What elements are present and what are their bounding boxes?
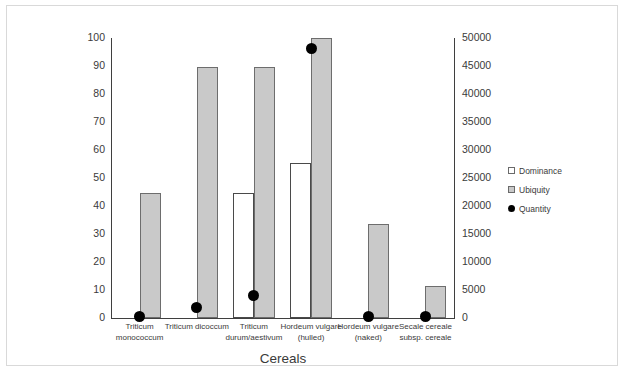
legend-swatch-icon [508,186,515,193]
point-quantity [306,43,317,54]
bar-ubiquity [197,67,218,318]
y-axis-left-tick: 90 [93,60,105,71]
x-axis-title: Cereals [111,351,455,366]
chart-legend: DominanceUbiquityQuantity [508,161,608,218]
bar-ubiquity [368,224,389,318]
point-quantity [248,290,259,301]
y-axis-right-tick: 5000 [462,284,485,295]
y-axis-right-tick: 50000 [462,32,491,43]
point-quantity [420,311,431,322]
legend-swatch-icon [508,205,515,212]
y-axis-left-tick: 60 [93,144,105,155]
legend-item: Ubiquity [508,180,608,199]
chart-frame: 0102030405060708090100 05000100001500020… [6,5,618,366]
y-axis-left-tick: 80 [93,88,105,99]
x-axis-line [111,318,455,319]
bar-ubiquity [140,193,161,318]
legend-label: Quantity [519,204,551,214]
y-axis-left-tick: 50 [93,172,105,183]
y-axis-left-tick: 100 [87,32,105,43]
y-axis-right-tick: 25000 [462,172,491,183]
bar-ubiquity [311,38,332,318]
y-axis-right-tick: 15000 [462,228,491,239]
legend-item: Dominance [508,161,608,180]
legend-item: Quantity [508,199,608,218]
y-axis-left-tick: 10 [93,284,105,295]
y-axis-right-tick: 10000 [462,256,491,267]
y-axis-right-line [454,38,455,319]
y-axis-right-tick: 0 [462,312,468,323]
y-axis-right-tick: 45000 [462,60,491,71]
legend-swatch-icon [508,167,515,174]
y-axis-right-tick: 40000 [462,88,491,99]
y-axis-left-ticks: 0102030405060708090100 [67,6,105,374]
bar-dominance [290,163,311,318]
y-axis-left-tick: 30 [93,228,105,239]
plot-area [111,38,454,318]
y-axis-right-tick: 20000 [462,200,491,211]
y-axis-right-tick: 35000 [462,116,491,127]
y-axis-left-tick: 20 [93,256,105,267]
y-axis-left-tick: 70 [93,116,105,127]
y-axis-right-tick: 30000 [462,144,491,155]
legend-label: Ubiquity [519,185,550,195]
point-quantity [134,311,145,322]
x-axis-category-label: Secale cerealesubsp. cereale [391,322,460,343]
point-quantity [363,311,374,322]
legend-label: Dominance [519,166,562,176]
bar-ubiquity [254,67,275,318]
y-axis-left-tick: 40 [93,200,105,211]
